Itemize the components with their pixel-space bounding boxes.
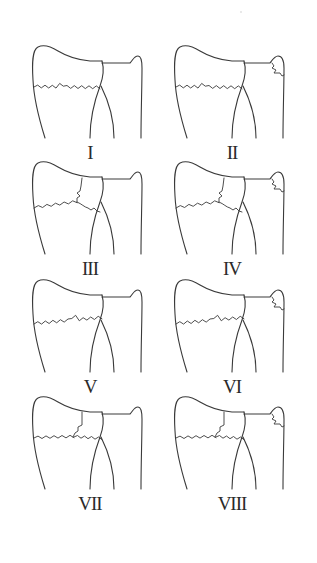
radius-ulnar-border	[232, 61, 245, 138]
ulna-outline	[102, 172, 142, 254]
radius-ulnar-border	[90, 412, 103, 489]
panel-type-6: VI	[162, 276, 302, 394]
ulna-outline	[244, 56, 284, 138]
radius-fracture-line	[176, 435, 216, 438]
panel-type-5: V	[20, 276, 160, 394]
wrist-drawing	[162, 393, 302, 493]
radius-fracture-line	[34, 435, 74, 438]
radius-outline	[33, 46, 102, 138]
wrist-drawing	[20, 158, 160, 258]
radiocarpal-fracture-line	[215, 412, 224, 437]
ulna-outline	[244, 172, 284, 254]
radius-fracture-line	[74, 436, 102, 440]
wrist-drawing	[162, 42, 302, 142]
ulnar-styloid-fracture-line	[272, 63, 284, 76]
radius-ulnar-border	[90, 295, 103, 372]
ulna-radial-border	[243, 86, 256, 138]
ulna-outline	[244, 290, 284, 372]
radius-fracture-line	[216, 436, 244, 440]
wrist-drawing	[20, 42, 160, 142]
ulna-radial-border	[101, 320, 114, 372]
radiocarpal-fracture-line	[73, 412, 82, 437]
ulna-outline	[102, 290, 142, 372]
ulna-radial-border	[101, 437, 114, 489]
radius-fracture-line	[34, 201, 77, 208]
ulnar-styloid-fracture-line	[272, 179, 284, 192]
panel-label: VIII	[162, 493, 302, 515]
radius-fracture-line	[77, 202, 100, 212]
ulna-radial-border	[243, 320, 256, 372]
radius-ulnar-border	[232, 177, 245, 254]
wrist-drawing	[162, 276, 302, 376]
ulnar-styloid-fracture-line	[272, 414, 284, 427]
radius-outline	[175, 46, 244, 138]
ulna-radial-border	[101, 202, 114, 254]
radius-fracture-line	[34, 83, 100, 88]
radius-outline	[175, 397, 244, 489]
panel-label: VII	[20, 493, 160, 515]
fracture-classification-figure: I II III IV V VI VII VIII	[0, 0, 317, 563]
panel-type-8: VIII	[162, 393, 302, 511]
radius-fracture-line	[34, 315, 102, 324]
radius-outline	[33, 397, 102, 489]
radius-ulnar-border	[232, 412, 245, 489]
ulna-outline	[102, 56, 142, 138]
radius-fracture-line	[176, 83, 242, 88]
ulna-outline	[244, 407, 284, 489]
radius-outline	[33, 280, 102, 372]
wrist-drawing	[20, 393, 160, 493]
radiocarpal-fracture-line	[77, 178, 82, 202]
radius-ulnar-border	[90, 177, 103, 254]
wrist-drawing	[162, 158, 302, 258]
radiocarpal-fracture-line	[219, 178, 224, 202]
ulna-outline	[102, 407, 142, 489]
panel-type-7: VII	[20, 393, 160, 511]
ulna-radial-border	[101, 86, 114, 138]
radius-ulnar-border	[90, 61, 103, 138]
panel-type-4: IV	[162, 158, 302, 276]
ulna-radial-border	[243, 437, 256, 489]
ulnar-styloid-fracture-line	[272, 297, 284, 310]
panel-type-2: II	[162, 42, 302, 160]
radius-outline	[175, 280, 244, 372]
wrist-drawing	[20, 276, 160, 376]
radius-fracture-line	[219, 202, 242, 212]
radius-ulnar-border	[232, 295, 245, 372]
panel-type-1: I	[20, 42, 160, 160]
ulna-radial-border	[243, 202, 256, 254]
radius-fracture-line	[176, 201, 219, 208]
speck	[240, 11, 242, 13]
radius-fracture-line	[176, 315, 244, 324]
panel-type-3: III	[20, 158, 160, 276]
